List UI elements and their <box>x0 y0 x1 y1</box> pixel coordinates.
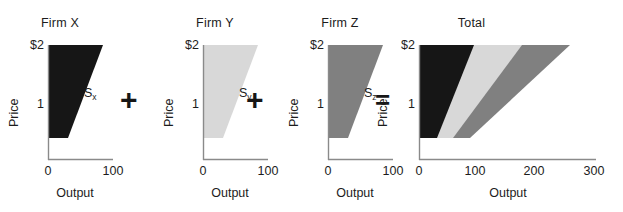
x-axis-label-firm-y: Output <box>195 186 265 200</box>
x-tick-0-total: 0 <box>410 164 428 178</box>
x-tick-0-firm-z: 0 <box>319 164 337 178</box>
x-tick-0-firm-x: 0 <box>39 164 57 178</box>
y-tick-2-total: $2 <box>387 38 415 52</box>
plot-area-total <box>400 0 623 212</box>
y-tick-1-total: 1 <box>387 97 415 111</box>
y-axis-label-total: Price <box>376 77 390 127</box>
y-axis-label-firm-x: Price <box>7 77 21 127</box>
x-tick-300-total: 300 <box>577 164 611 178</box>
panel-total: Total $2 1 0 100 200 300 Price Output <box>400 0 623 212</box>
x-axis-label-total: Output <box>473 186 543 200</box>
curve-label-firm-x: Sx <box>84 86 97 100</box>
x-tick-100-firm-x: 100 <box>96 164 130 178</box>
y-tick-2-firm-z: $2 <box>296 38 324 52</box>
y-axis-label-firm-y: Price <box>162 77 176 127</box>
plus-operator-1: + <box>120 85 138 115</box>
supply-aggregation-figure: Firm X $2 1 0 100 Price Output Sx + Firm… <box>0 0 623 212</box>
y-tick-2-firm-y: $2 <box>171 38 199 52</box>
x-tick-100-total: 100 <box>458 164 492 178</box>
x-axis-label-firm-z: Output <box>320 186 390 200</box>
x-tick-200-total: 200 <box>517 164 551 178</box>
x-axis-label-firm-x: Output <box>40 186 110 200</box>
x-tick-0-firm-y: 0 <box>194 164 212 178</box>
panel-firm-x: Firm X $2 1 0 100 Price Output Sx <box>0 0 120 212</box>
plus-operator-2: + <box>246 85 264 115</box>
y-axis-label-firm-z: Price <box>287 77 301 127</box>
y-tick-2-firm-x: $2 <box>16 38 44 52</box>
curve-label-sub-firm-x: x <box>92 92 96 102</box>
